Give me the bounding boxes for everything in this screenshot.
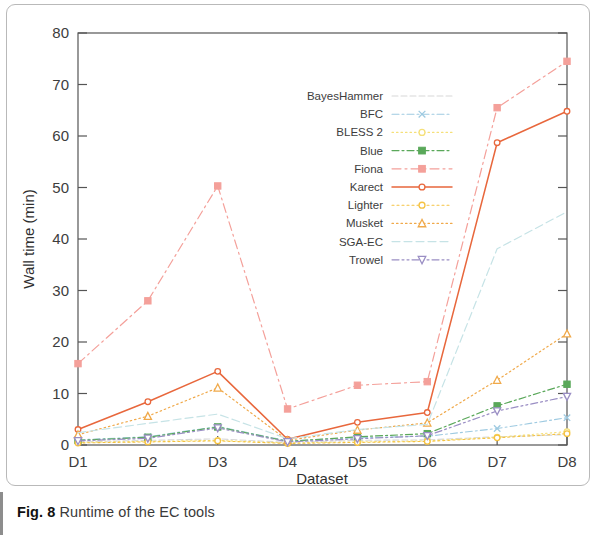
data-point-marker: [564, 58, 570, 64]
chart-series-karect: [75, 108, 570, 442]
legend-label: BLESS 2: [336, 126, 383, 138]
legend-item-sga-ec[interactable]: SGA-EC: [339, 236, 452, 248]
data-point-marker: [144, 412, 151, 419]
data-point-marker: [494, 376, 501, 383]
legend-label: Musket: [346, 217, 384, 229]
data-point-marker: [424, 378, 430, 384]
data-point-marker: [284, 406, 290, 412]
y-tick-label: 10: [52, 385, 69, 402]
data-point-marker: [145, 298, 151, 304]
figure-caption: Fig. 8Runtime of the EC tools: [0, 492, 596, 535]
data-point-marker: [214, 425, 221, 432]
runtime-line-chart: 01020304050607080 D1D2D3D4D5D6D7D8 Bayes…: [0, 0, 596, 492]
legend-item-karect[interactable]: Karect: [350, 181, 452, 193]
legend-label: BFC: [360, 108, 383, 120]
y-tick-label: 80: [52, 24, 69, 41]
x-tick-label: D7: [488, 453, 507, 470]
data-point-marker: [494, 140, 500, 146]
data-point-marker: [75, 360, 81, 366]
legend-label: Blue: [360, 145, 383, 157]
data-point-marker: [494, 104, 500, 110]
series-line: [78, 334, 567, 441]
x-tick-label: D4: [278, 453, 297, 470]
legend-item-blue[interactable]: Blue: [360, 145, 452, 157]
x-axis-title: Dataset: [296, 470, 349, 487]
legend-item-musket[interactable]: Musket: [346, 217, 452, 229]
data-point-marker: [563, 393, 570, 400]
data-point-marker: [494, 435, 500, 441]
data-point-marker: [419, 165, 426, 172]
legend-item-bayeshammer[interactable]: BayesHammer: [307, 90, 452, 102]
data-point-marker: [214, 384, 221, 391]
legend-item-trowel[interactable]: Trowel: [349, 254, 452, 266]
data-point-marker: [145, 399, 151, 405]
figure-container: 01020304050607080 D1D2D3D4D5D6D7D8 Bayes…: [0, 0, 596, 535]
data-point-marker: [424, 410, 430, 416]
legend-label: Karect: [350, 181, 384, 193]
series-line: [78, 61, 567, 409]
data-point-marker: [419, 147, 426, 154]
y-tick-label: 40: [52, 230, 69, 247]
legend-label: Lighter: [348, 199, 383, 211]
chart-series-musket: [74, 330, 570, 444]
y-tick-label: 20: [52, 333, 69, 350]
y-tick-label: 30: [52, 282, 69, 299]
caption-label: Fig. 8: [17, 504, 55, 520]
y-tick-label: 70: [52, 76, 69, 93]
data-point-marker: [215, 438, 221, 444]
data-point-marker: [563, 330, 570, 337]
x-tick-label: D1: [68, 453, 87, 470]
legend-label: BayesHammer: [307, 90, 383, 102]
data-point-marker: [355, 420, 361, 426]
chart-plot-area: 01020304050607080 D1D2D3D4D5D6D7D8 Bayes…: [0, 0, 596, 492]
legend-item-lighter[interactable]: Lighter: [348, 199, 452, 211]
series-line: [78, 111, 567, 439]
x-tick-label: D2: [138, 453, 157, 470]
y-tick-label: 0: [61, 436, 69, 453]
legend-item-bless-2[interactable]: BLESS 2: [336, 126, 452, 138]
data-point-marker: [215, 183, 221, 189]
data-point-marker: [419, 129, 425, 135]
data-point-marker: [215, 369, 221, 375]
series-layer: [74, 58, 570, 446]
y-tick-label: 50: [52, 179, 69, 196]
x-tick-label: D6: [418, 453, 437, 470]
chart-series-fiona: [75, 58, 570, 412]
data-point-marker: [564, 431, 570, 437]
caption-text: Runtime of the EC tools: [59, 504, 214, 520]
x-tick-label: D3: [208, 453, 227, 470]
data-point-marker: [564, 108, 570, 114]
x-tick-label: D8: [557, 453, 576, 470]
y-axis-ticks: 01020304050607080: [52, 24, 567, 453]
legend-label: Trowel: [349, 254, 383, 266]
y-axis-title: Wall time (min): [20, 189, 37, 288]
data-point-marker: [494, 408, 501, 415]
data-point-marker: [419, 184, 425, 190]
y-tick-label: 60: [52, 127, 69, 144]
data-point-marker: [354, 382, 360, 388]
data-point-marker: [419, 202, 425, 208]
data-point-marker: [564, 381, 570, 387]
chart-legend: BayesHammerBFCBLESS 2BlueFionaKarectLigh…: [307, 90, 452, 266]
legend-item-fiona[interactable]: Fiona: [354, 163, 452, 175]
legend-label: Fiona: [354, 163, 383, 175]
legend-label: SGA-EC: [339, 236, 383, 248]
x-tick-label: D5: [348, 453, 367, 470]
legend-item-bfc[interactable]: BFC: [360, 108, 452, 120]
